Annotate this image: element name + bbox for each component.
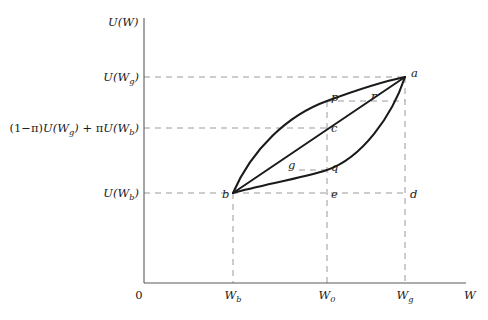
axes-group bbox=[144, 18, 466, 283]
point-label-e: e bbox=[331, 187, 338, 201]
point-label-p: p bbox=[331, 90, 339, 104]
point-label-b: b bbox=[222, 187, 229, 201]
x-axis-title: W bbox=[464, 288, 477, 302]
point-label-q: q bbox=[331, 160, 338, 174]
chord-line bbox=[233, 77, 405, 193]
y-axis-title: U(W) bbox=[108, 15, 139, 29]
xtick-label-wb: Wb bbox=[224, 288, 241, 304]
point-label-a: a bbox=[411, 66, 418, 80]
curves-group bbox=[233, 77, 405, 193]
ytick-label-u-wb: U(Wb) bbox=[103, 186, 139, 202]
point-label-c: c bbox=[331, 121, 338, 135]
ytick-label-u-wg: U(Wg) bbox=[103, 70, 139, 86]
xtick-label-wg: Wg bbox=[396, 288, 413, 304]
xtick-label-w0: W0 bbox=[318, 288, 335, 304]
guide-lines-group bbox=[144, 77, 406, 283]
point-label-d: d bbox=[410, 187, 417, 201]
ytick-label-expected-utility: (1−π)U(Wg) + πU(Wb) bbox=[9, 121, 139, 137]
point-label-g: g bbox=[288, 158, 295, 172]
origin-label: 0 bbox=[135, 288, 142, 302]
utility-function-figure: U(W) U(Wg) (1−π)U(Wg) + πU(Wb) U(Wb) Wb … bbox=[0, 0, 488, 320]
